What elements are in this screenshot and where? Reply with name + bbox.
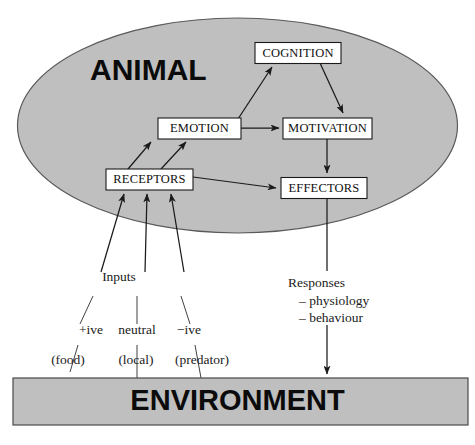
node-cognition-label: COGNITION <box>262 46 333 60</box>
node-cognition[interactable]: COGNITION <box>255 43 341 64</box>
label-inputs: Inputs <box>102 269 136 284</box>
animal-environment-diagram: ANIMAL COGNITION <box>0 0 475 445</box>
node-motivation-label: MOTIVATION <box>288 121 367 135</box>
leader-positive-upper <box>80 296 93 324</box>
node-effectors[interactable]: EFFECTORS <box>281 178 367 199</box>
node-emotion-label: EMOTION <box>170 121 229 135</box>
label-responses: Responses <box>288 275 345 290</box>
label-food: (food) <box>51 352 85 367</box>
leader-negative-upper <box>181 296 190 324</box>
diagram-canvas: ANIMAL COGNITION <box>0 0 475 445</box>
node-emotion[interactable]: EMOTION <box>158 118 241 139</box>
environment-title: ENVIRONMENT <box>130 384 345 416</box>
animal-title: ANIMAL <box>90 53 207 86</box>
label-positive: +ive <box>79 322 103 337</box>
node-receptors[interactable]: RECEPTORS <box>106 169 193 190</box>
label-responses-physiology: – physiology <box>298 293 369 308</box>
node-motivation[interactable]: MOTIVATION <box>283 118 372 139</box>
node-effectors-label: EFFECTORS <box>288 181 359 195</box>
label-local: (local) <box>118 352 153 367</box>
environment-container: ENVIRONMENT <box>13 378 468 425</box>
label-negative: −ive <box>177 322 201 337</box>
label-responses-behaviour: – behaviour <box>298 310 364 325</box>
node-receptors-label: RECEPTORS <box>113 172 185 186</box>
label-neutral: neutral <box>118 322 156 337</box>
label-predator: (predator) <box>175 352 229 367</box>
